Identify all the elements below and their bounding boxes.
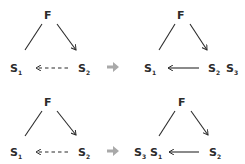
node-s1: S1 (10, 62, 22, 76)
node-s2: S2 (209, 146, 221, 160)
edge-f-s2-arrow (191, 111, 208, 135)
node-f: F (44, 9, 52, 22)
node-f: F (44, 96, 52, 109)
node-f: F (178, 96, 186, 109)
edge-f-s1 (25, 111, 42, 136)
diagram-canvas: F S1 S2 F S1 S2 S3 F S1 S2 F S3 S1 (0, 0, 245, 164)
edge-f-s1 (25, 24, 42, 50)
node-s2: S2 (78, 62, 90, 76)
edge-f-s2-arrow (190, 24, 207, 50)
transition-arrow-icon (107, 146, 119, 156)
edge-f-s2-arrow (57, 111, 76, 135)
edge-f-s2-arrow (57, 24, 76, 50)
node-s3: S3 (226, 62, 238, 76)
edge-f-s1 (159, 24, 175, 50)
node-s2: S2 (78, 146, 90, 160)
node-s2: S2 (208, 62, 220, 76)
node-f: F (177, 9, 185, 22)
row1-before-diagram: F S1 S2 (10, 9, 90, 76)
node-s1: S1 (150, 146, 162, 160)
row2-before-diagram: F S1 S2 (10, 96, 90, 160)
node-s1: S1 (10, 146, 22, 160)
edge-f-s1 (159, 111, 175, 136)
row1-after-diagram: F S1 S2 S3 (144, 9, 238, 76)
row2-after-diagram: F S3 S1 S2 (134, 96, 221, 160)
node-s3: S3 (134, 146, 146, 160)
transition-arrow-icon (107, 62, 119, 72)
node-s1: S1 (144, 62, 156, 76)
